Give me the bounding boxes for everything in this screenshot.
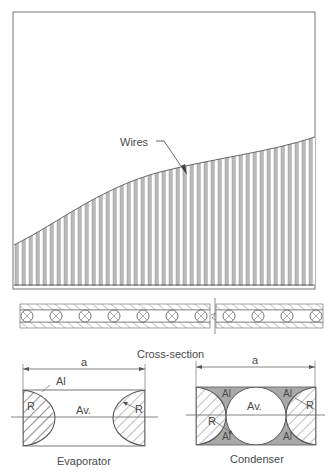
condenser-al-bottom-right: Al	[283, 432, 292, 442]
wires-label: Wires	[120, 137, 148, 148]
condenser-r-right-label: R	[306, 400, 314, 411]
evaporator-al-label: Al	[56, 376, 66, 387]
evaporator-caption: Evaporator	[57, 456, 111, 467]
condenser-r-left-label: R	[208, 416, 216, 427]
evaporator-av-label: Av.	[76, 405, 91, 416]
evaporator-dimension-a: a	[81, 357, 87, 368]
condenser-dimension-a: a	[252, 355, 258, 366]
condenser-al-bottom-left: Al	[222, 432, 231, 442]
cross-section-caption: Cross-section	[137, 349, 204, 360]
condenser-al-top-left: Al	[222, 389, 231, 399]
plate-panel	[13, 12, 315, 289]
evaporator-r-right-label: R	[135, 404, 143, 415]
cross-section-strip	[20, 298, 323, 334]
heat-pipe-diagram	[0, 0, 334, 475]
wires	[14, 130, 315, 286]
condenser-caption: Condenser	[230, 454, 284, 465]
evaporator-r-left-label: R	[27, 401, 35, 412]
condenser-av-label: Av.	[247, 401, 262, 412]
condenser-al-top-right: Al	[283, 389, 292, 399]
